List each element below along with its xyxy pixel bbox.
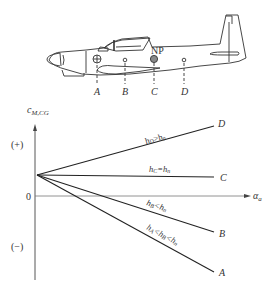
neutral-point-marker: [150, 55, 157, 62]
cg-marker-b: [123, 58, 127, 62]
line-b-label: B: [219, 228, 225, 239]
line-c-label: C: [220, 172, 227, 183]
airplane-drawing: [47, 15, 246, 76]
annotation-d: hD>hn: [144, 131, 167, 146]
wing: [97, 66, 160, 75]
fuselage: [49, 15, 246, 75]
x-axis-label: αa: [253, 190, 262, 203]
cg-label-d: D: [180, 86, 189, 97]
line-d-label: D: [217, 118, 226, 129]
np-label: NP: [151, 45, 164, 56]
stability-diagram: NP A B C D cM,CG (+) 0 (−) αa D C B A hD…: [0, 0, 271, 291]
cg-label-a: A: [93, 86, 101, 97]
positive-region-label: (+): [11, 139, 23, 151]
horizontal-stabilizer: [210, 52, 239, 55]
moment-lines: [37, 126, 214, 272]
line-d: [37, 126, 214, 175]
line-a-label: A: [218, 267, 226, 278]
negative-region-label: (−): [11, 241, 23, 253]
x-axis-arrow: [244, 194, 251, 198]
axes: [33, 124, 251, 280]
cg-marker-d: [182, 58, 186, 62]
canopy: [104, 38, 150, 51]
cg-label-b: B: [122, 86, 128, 97]
cg-label-c: C: [151, 86, 158, 97]
y-axis-arrow: [33, 124, 37, 131]
annotation-a: hA<hB<hn: [145, 222, 180, 247]
annotation-c: hC=hn: [149, 164, 170, 174]
zero-label: 0: [26, 191, 31, 202]
y-axis-label: cM,CG: [27, 104, 49, 117]
line-c: [37, 175, 214, 177]
